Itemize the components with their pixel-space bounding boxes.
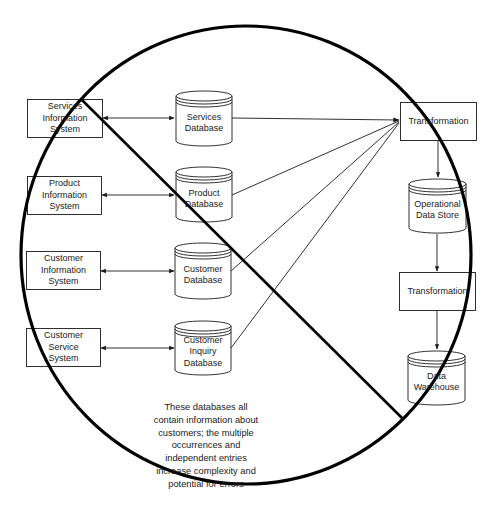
customer-service-system-box	[27, 329, 101, 367]
inquiry-db-to-transformation-arrow	[231, 123, 399, 348]
operational-data-store-cylinder	[409, 179, 466, 233]
customer-inquiry-database-cylinder	[175, 321, 231, 375]
product-information-system-box	[28, 177, 102, 215]
prohibition-slash	[82, 100, 402, 418]
services-database-cylinder	[176, 91, 232, 146]
services-db-to-transformation-arrow	[232, 118, 399, 120]
customer-information-system-box	[27, 252, 101, 290]
customer-database-cylinder	[175, 243, 231, 299]
product-database-cylinder	[176, 167, 232, 222]
product-db-to-transformation-arrow	[232, 121, 399, 195]
annotation-note: These databases all contain information …	[131, 401, 281, 491]
customer-db-to-transformation-arrow	[231, 122, 399, 271]
